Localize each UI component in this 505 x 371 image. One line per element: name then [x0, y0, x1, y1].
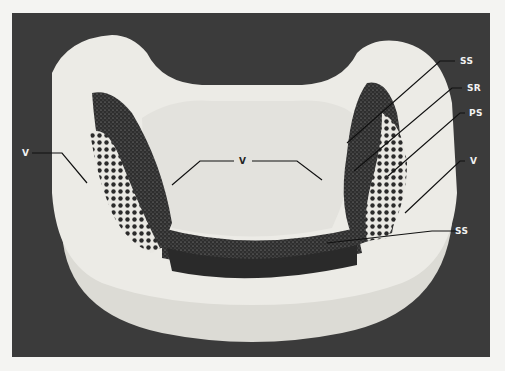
- label-ps: PS: [469, 108, 483, 118]
- label-sr: SR: [467, 83, 481, 93]
- label-ss-top: SS: [460, 56, 473, 66]
- label-v-left: V: [22, 148, 29, 158]
- dental-cast-photo: SS SR PS V SS V V: [12, 13, 490, 357]
- label-v-right: V: [470, 156, 477, 166]
- label-v-center: V: [239, 156, 246, 166]
- label-ss-bottom: SS: [455, 226, 468, 236]
- dental-cast-illustration: [12, 13, 490, 357]
